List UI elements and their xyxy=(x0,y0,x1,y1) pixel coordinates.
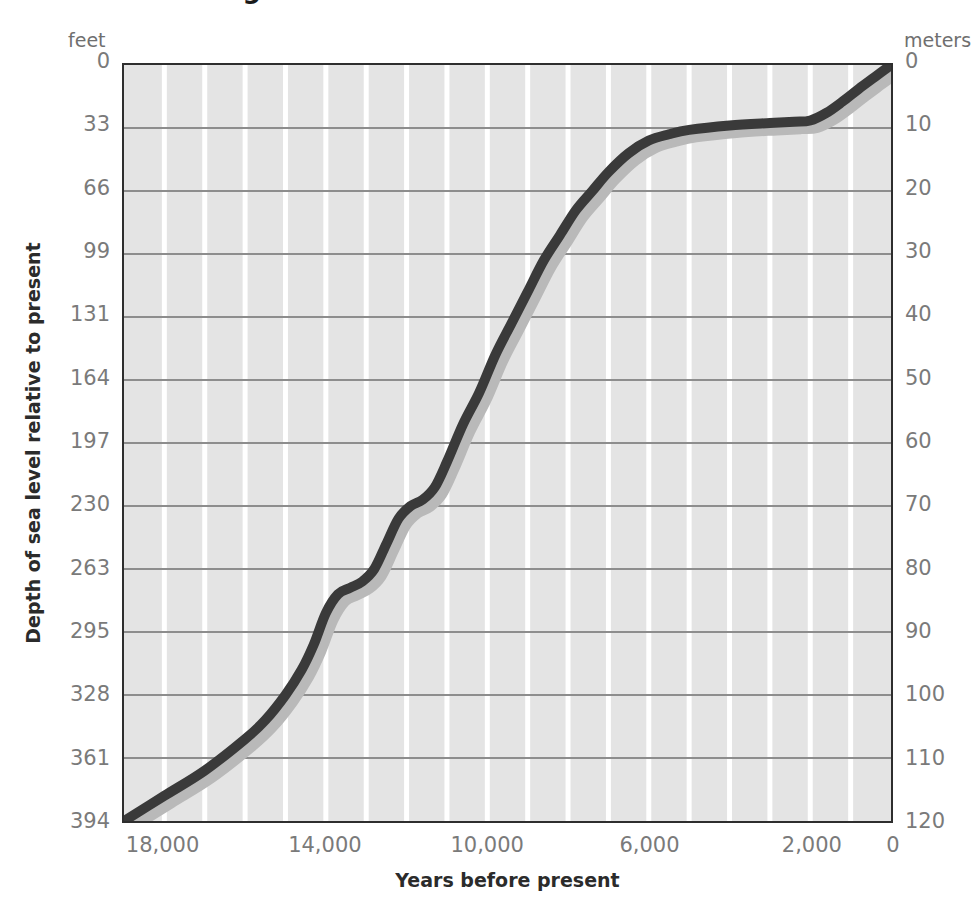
right-axis-tick-label: 60 xyxy=(905,429,973,453)
x-axis-title: Years before present xyxy=(122,869,893,891)
right-axis-tick-label: 30 xyxy=(905,239,973,263)
left-axis-tick-label: 0 xyxy=(54,49,110,73)
right-axis-tick-label: 20 xyxy=(905,176,973,200)
left-axis-tick-label: 263 xyxy=(54,556,110,580)
left-axis-tick-label: 328 xyxy=(54,682,110,706)
right-axis-tick-label: 100 xyxy=(905,682,973,706)
left-axis-tick-label: 131 xyxy=(54,302,110,326)
right-axis-tick-label: 70 xyxy=(905,492,973,516)
x-axis-tick-label: 14,000 xyxy=(265,833,385,857)
left-axis-tick-label: 230 xyxy=(54,492,110,516)
left-axis-tick-label: 33 xyxy=(54,112,110,136)
left-axis-tick-label: 164 xyxy=(54,366,110,390)
x-axis-tick-label: 18,000 xyxy=(103,833,223,857)
left-axis-tick-label: 66 xyxy=(54,176,110,200)
chart-title: Sea Level Rising xyxy=(18,0,261,4)
right-axis-tick-label: 0 xyxy=(905,49,973,73)
x-axis-tick-label: 0 xyxy=(833,833,953,857)
plot-canvas xyxy=(124,65,891,821)
major-gridlines xyxy=(124,128,891,758)
sea-level-chart-figure: Sea Level Rising feet meters 03366991311… xyxy=(0,0,973,913)
left-axis-tick-label: 394 xyxy=(54,809,110,833)
right-axis-tick-labels: 0102030405060708090100110120 xyxy=(905,63,973,823)
x-axis-tick-label: 6,000 xyxy=(590,833,710,857)
right-axis-tick-label: 90 xyxy=(905,619,973,643)
left-axis-tick-label: 361 xyxy=(54,746,110,770)
right-axis-unit-caption: meters xyxy=(904,29,971,51)
right-axis-tick-label: 80 xyxy=(905,556,973,580)
left-axis-unit-caption: feet xyxy=(68,29,106,51)
right-axis-tick-label: 40 xyxy=(905,302,973,326)
x-axis-tick-label: 10,000 xyxy=(427,833,547,857)
left-axis-tick-labels: 0336699131164197230263295328361394 xyxy=(54,63,110,823)
right-axis-tick-label: 10 xyxy=(905,112,973,136)
y-axis-title: Depth of sea level relative to present xyxy=(16,63,50,823)
left-axis-tick-label: 99 xyxy=(54,239,110,263)
left-axis-tick-label: 295 xyxy=(54,619,110,643)
right-axis-tick-label: 110 xyxy=(905,746,973,770)
y-axis-title-wrapper: Depth of sea level relative to present xyxy=(16,63,50,823)
right-axis-tick-label: 50 xyxy=(905,366,973,390)
x-axis-tick-labels: 18,00014,00010,0006,0002,0000 xyxy=(122,833,893,863)
right-axis-tick-label: 120 xyxy=(905,809,973,833)
plot-area xyxy=(122,63,893,823)
left-axis-tick-label: 197 xyxy=(54,429,110,453)
